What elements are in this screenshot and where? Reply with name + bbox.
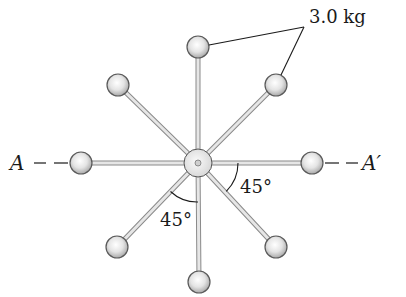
mass-ball-lower-right	[265, 236, 287, 258]
center-hub	[184, 149, 212, 177]
rotating-mass-diagram: 3.0 kg A A′ 45° 45°	[0, 0, 406, 297]
mass-ball-top	[187, 36, 209, 58]
angle-label-right: 45°	[240, 176, 272, 197]
mass-ball-left	[70, 152, 92, 174]
axis-label-a: A	[8, 151, 24, 175]
angle-label-left: 45°	[160, 209, 192, 230]
mass-leader-lines	[209, 27, 304, 75]
mass-ball-upper-left	[107, 74, 129, 96]
mass-ball-lower-left	[106, 236, 128, 258]
mass-ball-bottom	[188, 271, 210, 293]
axis-label-a-prime: A′	[360, 151, 381, 175]
mass-ball-right	[301, 152, 323, 174]
mass-ball-upper-right	[265, 74, 287, 96]
mass-label: 3.0 kg	[309, 6, 366, 27]
